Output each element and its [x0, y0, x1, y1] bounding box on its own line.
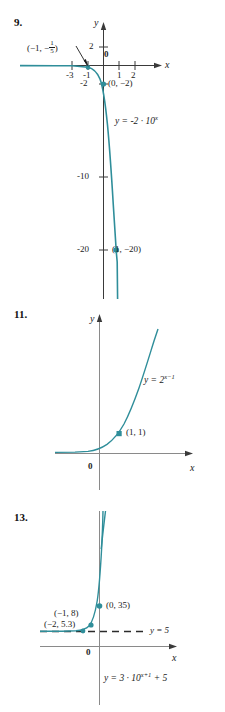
figure-13: 13. (0, 35) (−1, 8) (−2, 5.3) y = 5 x 0 … — [0, 505, 225, 712]
figure-9-number: 9. — [14, 16, 22, 28]
figure-9-x-axis-label: x — [165, 60, 169, 70]
figure-9-point-label-c: (1, −20) — [112, 245, 141, 254]
figure-11: 11. y x 0 (1, 1) y = 2x−1 — [0, 300, 225, 505]
figure-9-point-label-b: (0, −2) — [108, 79, 133, 88]
figure-11-number: 11. — [14, 308, 27, 320]
figure-11-equation-label: y = 2x−1 — [144, 376, 175, 386]
figure-9-origin-label: 0 — [104, 50, 109, 59]
figure-9-y-tick-neg10: -10 — [77, 172, 89, 181]
figure-11-graph — [0, 300, 225, 505]
figure-9: 9. — [0, 0, 225, 300]
figure-11-x-axis-label: x — [190, 463, 194, 473]
figure-13-x-axis-label: x — [172, 653, 176, 663]
figure-9-y-tick-neg2: -2 — [80, 79, 88, 88]
worked-answers-page: 9. — [0, 0, 225, 712]
figure-13-asymptote-label: y = 5 — [150, 626, 169, 635]
figure-11-y-axis-label: y — [90, 314, 94, 324]
figure-9-x-tick-neg3: -3 — [66, 71, 74, 80]
figure-13-origin-label: 0 — [86, 648, 91, 657]
figure-13-equation-label: y = 3 · 10x+1 + 5 — [104, 674, 167, 684]
figure-9-y-tick-2: 2 — [89, 42, 94, 51]
figure-13-point-label-a: (0, 35) — [106, 601, 130, 610]
figure-11-origin-label: 0 — [88, 462, 93, 471]
figure-11-point-label: (1, 1) — [126, 428, 146, 437]
figure-9-equation-label: y = -2 · 10x — [115, 117, 158, 127]
figure-13-number: 13. — [14, 511, 28, 523]
figure-9-y-axis-label: y — [94, 18, 98, 28]
figure-13-point-label-c: (−2, 5.3) — [44, 620, 75, 629]
figure-9-point-label-a: (−1, −15) — [27, 40, 58, 55]
figure-9-y-tick-neg20: -20 — [77, 245, 89, 254]
figure-13-point-label-b: (−1, 8) — [54, 609, 79, 618]
